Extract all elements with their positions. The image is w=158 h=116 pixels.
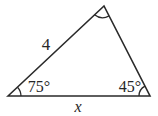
side-label-bottom: x: [73, 98, 81, 115]
angle-label-bottom-right: 45°: [119, 78, 141, 95]
triangle-diagram: 4 x 75° 45°: [0, 0, 158, 116]
top-angle-arc: [95, 15, 110, 18]
angle-label-bottom-left: 75°: [28, 78, 50, 95]
side-label-left: 4: [42, 35, 51, 54]
left-angle-arc: [18, 87, 22, 96]
triangle-figure-svg: 4 x 75° 45°: [0, 0, 158, 116]
